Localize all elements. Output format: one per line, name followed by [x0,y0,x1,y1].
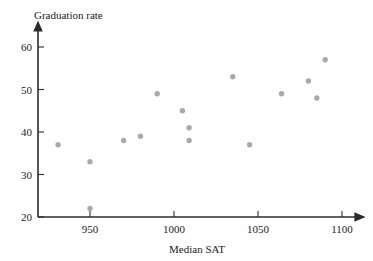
plot-canvas: 2030405060950100010501100Graduation rate… [0,0,373,261]
data-point [138,134,143,139]
x-axis-title: Median SAT [169,243,225,255]
data-point [323,57,328,62]
data-point [155,91,160,96]
y-tick-label: 30 [21,169,33,181]
data-point [180,108,185,113]
x-tick-label: 1000 [163,223,186,235]
data-point [306,78,311,83]
data-point [247,142,252,147]
data-point [279,91,284,96]
x-tick-label: 950 [82,223,99,235]
data-point [87,206,92,211]
y-tick-label: 40 [21,126,33,138]
data-point [121,138,126,143]
data-point [186,138,191,143]
scatter-plot-figure: 2030405060950100010501100Graduation rate… [0,0,373,261]
y-tick-label: 20 [21,211,33,223]
data-point [87,159,92,164]
y-tick-label: 60 [21,41,33,53]
y-axis-title: Graduation rate [34,9,103,21]
data-point [55,142,60,147]
data-point [230,74,235,79]
data-point [314,95,319,100]
x-tick-label: 1050 [247,223,270,235]
y-tick-label: 50 [21,84,33,96]
data-point [186,125,191,130]
x-tick-label: 1100 [331,223,353,235]
